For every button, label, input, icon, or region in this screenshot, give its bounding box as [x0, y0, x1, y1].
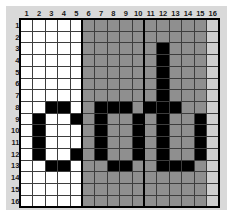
grid-cell-filled[interactable] — [107, 160, 119, 172]
grid-cell-empty[interactable] — [33, 101, 45, 113]
row-header-8[interactable]: 8 — [8, 101, 20, 113]
grid-cell-filled[interactable] — [157, 90, 169, 102]
grid-cell-empty[interactable] — [45, 43, 57, 55]
grid-cell-empty[interactable] — [33, 90, 45, 102]
grid-cell-empty[interactable] — [82, 113, 94, 125]
grid-cell-empty[interactable] — [95, 43, 107, 55]
grid-cell-empty[interactable] — [45, 113, 57, 125]
grid-cell-empty[interactable] — [120, 172, 132, 184]
grid-cell-empty[interactable] — [157, 172, 169, 184]
grid-cell-empty[interactable] — [182, 90, 194, 102]
grid-cell-empty[interactable] — [20, 160, 32, 172]
grid-cell-empty[interactable] — [58, 125, 70, 137]
grid-cell-empty[interactable] — [45, 19, 57, 31]
grid-cell-empty[interactable] — [132, 55, 144, 67]
grid-cell-empty[interactable] — [207, 55, 220, 67]
grid-cell-empty[interactable] — [82, 137, 94, 149]
grid-cell-filled[interactable] — [194, 137, 206, 149]
grid-cell-empty[interactable] — [70, 137, 82, 149]
grid-cell-filled[interactable] — [95, 148, 107, 160]
grid-cell-empty[interactable] — [58, 184, 70, 196]
grid-cell-empty[interactable] — [33, 19, 45, 31]
grid-cell-empty[interactable] — [157, 184, 169, 196]
grid-cell-empty[interactable] — [157, 19, 169, 31]
grid-cell-empty[interactable] — [194, 78, 206, 90]
grid-cell-empty[interactable] — [82, 19, 94, 31]
grid-cell-empty[interactable] — [207, 101, 220, 113]
grid-cell-empty[interactable] — [45, 125, 57, 137]
grid-cell-empty[interactable] — [82, 55, 94, 67]
grid-cell-empty[interactable] — [20, 137, 32, 149]
row-header-14[interactable]: 14 — [8, 172, 20, 184]
column-header-7[interactable]: 7 — [95, 8, 107, 19]
column-header-5[interactable]: 5 — [70, 8, 82, 19]
grid-cell-empty[interactable] — [194, 55, 206, 67]
grid-cell-empty[interactable] — [132, 184, 144, 196]
grid-cell-filled[interactable] — [132, 148, 144, 160]
grid-cell-empty[interactable] — [169, 137, 181, 149]
grid-cell-filled[interactable] — [107, 101, 119, 113]
grid-cell-empty[interactable] — [182, 101, 194, 113]
grid-cell-empty[interactable] — [70, 55, 82, 67]
grid-cell-empty[interactable] — [82, 195, 94, 207]
grid-cell-empty[interactable] — [58, 31, 70, 43]
grid-cell-empty[interactable] — [107, 19, 119, 31]
grid-cell-empty[interactable] — [169, 55, 181, 67]
row-header-10[interactable]: 10 — [8, 125, 20, 137]
grid-cell-filled[interactable] — [157, 66, 169, 78]
grid-cell-empty[interactable] — [95, 172, 107, 184]
grid-cell-empty[interactable] — [82, 78, 94, 90]
grid-cell-empty[interactable] — [169, 43, 181, 55]
grid-cell-empty[interactable] — [120, 184, 132, 196]
grid-cell-empty[interactable] — [107, 90, 119, 102]
grid-cell-empty[interactable] — [70, 125, 82, 137]
grid-cell-empty[interactable] — [95, 90, 107, 102]
grid-cell-empty[interactable] — [70, 78, 82, 90]
grid-cell-empty[interactable] — [82, 101, 94, 113]
grid-cell-empty[interactable] — [194, 172, 206, 184]
grid-cell-empty[interactable] — [132, 19, 144, 31]
grid-cell-filled[interactable] — [33, 125, 45, 137]
column-header-3[interactable]: 3 — [45, 8, 57, 19]
row-header-9[interactable]: 9 — [8, 113, 20, 125]
grid-cell-empty[interactable] — [58, 43, 70, 55]
grid-cell-empty[interactable] — [33, 78, 45, 90]
grid-cell-empty[interactable] — [33, 66, 45, 78]
grid-cell-filled[interactable] — [33, 113, 45, 125]
grid-cell-empty[interactable] — [169, 195, 181, 207]
grid-cell-empty[interactable] — [45, 31, 57, 43]
column-header-8[interactable]: 8 — [107, 8, 119, 19]
grid-cell-empty[interactable] — [169, 148, 181, 160]
grid-cell-empty[interactable] — [95, 160, 107, 172]
grid-cell-filled[interactable] — [157, 43, 169, 55]
grid-cell-empty[interactable] — [169, 66, 181, 78]
grid-cell-empty[interactable] — [169, 172, 181, 184]
grid-cell-empty[interactable] — [45, 90, 57, 102]
grid-cell-empty[interactable] — [70, 160, 82, 172]
grid-cell-empty[interactable] — [132, 172, 144, 184]
grid-cell-empty[interactable] — [20, 125, 32, 137]
grid-cell-empty[interactable] — [144, 113, 156, 125]
row-header-6[interactable]: 6 — [8, 78, 20, 90]
grid-cell-filled[interactable] — [157, 137, 169, 149]
grid-cell-empty[interactable] — [207, 31, 220, 43]
row-header-4[interactable]: 4 — [8, 55, 20, 67]
column-header-14[interactable]: 14 — [182, 8, 194, 19]
grid-cell-empty[interactable] — [95, 55, 107, 67]
grid-cell-empty[interactable] — [182, 184, 194, 196]
grid-cell-empty[interactable] — [120, 113, 132, 125]
grid-cell-empty[interactable] — [207, 137, 220, 149]
grid-cell-empty[interactable] — [120, 78, 132, 90]
grid-cell-empty[interactable] — [120, 148, 132, 160]
grid-cell-empty[interactable] — [58, 90, 70, 102]
grid-cell-empty[interactable] — [107, 55, 119, 67]
grid-cell-empty[interactable] — [82, 184, 94, 196]
grid-cell-empty[interactable] — [20, 19, 32, 31]
grid-cell-filled[interactable] — [95, 137, 107, 149]
grid-cell-empty[interactable] — [169, 78, 181, 90]
grid-cell-empty[interactable] — [144, 125, 156, 137]
grid-cell-empty[interactable] — [182, 78, 194, 90]
column-header-9[interactable]: 9 — [120, 8, 132, 19]
grid-cell-empty[interactable] — [82, 160, 94, 172]
grid-cell-empty[interactable] — [82, 31, 94, 43]
